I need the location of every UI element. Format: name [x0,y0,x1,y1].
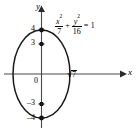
ellipse-figure: y x 0 4 3 –3 –4 √7 x2 7 + y2 16 = 1 [0,0,138,134]
equals-operator: = [83,21,89,30]
numerator-y: y2 [73,16,81,26]
fraction-x-term: x2 7 [55,16,63,36]
radical-group: √7 [67,70,77,79]
y-axis-label: y [36,2,40,11]
x-axis-arrowhead [120,71,127,78]
denominator-y: 16 [72,27,82,36]
focus-top-label: 3 [31,39,35,47]
x-intercept-label: √7 [67,70,77,79]
equation-rhs: 1 [90,21,95,30]
radicand: 7 [71,70,77,79]
numerator-x: x2 [55,16,63,26]
numerator-x-exponent: 2 [60,13,63,19]
denominator-x: 7 [56,27,62,36]
y-axis [38,6,45,129]
x-axis-label: x [128,68,132,77]
vertex-top-label: 4 [31,25,35,33]
plus-operator: + [65,21,71,30]
ellipse-equation: x2 7 + y2 16 = 1 [55,16,95,36]
fraction-y-term: y2 16 [72,16,82,36]
x-axis [4,71,127,78]
numerator-y-exponent: 2 [77,13,80,19]
origin-label: 0 [34,77,38,85]
vertex-bottom-label: –4 [27,114,35,122]
focus-bottom-label: –3 [27,99,35,107]
